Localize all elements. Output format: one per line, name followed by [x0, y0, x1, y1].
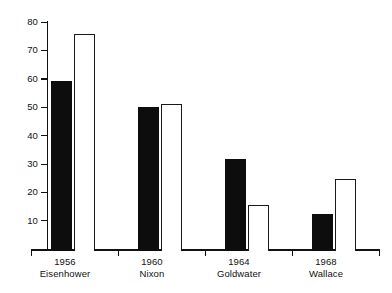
y-axis-label-70: 70 [12, 45, 38, 55]
bar-chart: 80 70 60 50 40 30 20 10 1956 Eisenhower … [0, 0, 392, 293]
x-axis-category-1968: 1968 Wallace [285, 256, 367, 280]
bar-outline-1956 [74, 34, 95, 251]
bar-outline-1964 [248, 205, 269, 251]
y-axis-label-50: 50 [12, 102, 38, 112]
category-name: Goldwater [198, 268, 280, 280]
bar-filled-1956 [51, 81, 72, 251]
x-axis-category-1960: 1960 Nixon [111, 256, 193, 280]
category-year: 1956 [24, 256, 106, 268]
x-axis-category-1956: 1956 Eisenhower [24, 256, 106, 280]
bar-outline-1960 [161, 104, 182, 251]
category-year: 1964 [198, 256, 280, 268]
bar-outline-1968 [335, 179, 356, 251]
category-year: 1968 [285, 256, 367, 268]
y-axis-label-80: 80 [12, 17, 38, 27]
category-name: Nixon [111, 268, 193, 280]
category-name: Wallace [285, 268, 367, 280]
category-year: 1960 [111, 256, 193, 268]
bar-filled-1968 [312, 214, 333, 252]
category-name: Eisenhower [24, 268, 106, 280]
y-axis-label-10: 10 [12, 216, 38, 226]
y-axis-label-60: 60 [12, 74, 38, 84]
y-axis-label-20: 20 [12, 187, 38, 197]
y-axis-label-40: 40 [12, 131, 38, 141]
x-axis-category-1964: 1964 Goldwater [198, 256, 280, 280]
bar-filled-1964 [225, 159, 246, 251]
y-axis-label-30: 30 [12, 159, 38, 169]
plot-area [47, 20, 380, 251]
bar-filled-1960 [138, 107, 159, 251]
